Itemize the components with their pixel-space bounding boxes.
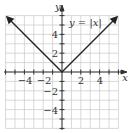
x-tick-label: 4	[97, 75, 103, 86]
y-tick-label: −2	[43, 86, 58, 97]
function-annotation: y = |x|	[68, 17, 102, 29]
absolute-value-graph: x y y = |x| −4 −2 2 4 4 2 −2 −4	[0, 0, 132, 133]
x-axis-label: x	[122, 72, 128, 83]
x-tick-label: −2	[37, 75, 52, 86]
x-tick-label: −4	[18, 75, 33, 86]
y-tick-label: −4	[43, 105, 58, 116]
y-axis-label: y	[54, 1, 61, 12]
y-tick-label: 4	[52, 29, 58, 40]
axes	[4, 5, 127, 130]
y-tick-label: 2	[52, 48, 58, 59]
x-tick-label: 2	[78, 75, 84, 86]
